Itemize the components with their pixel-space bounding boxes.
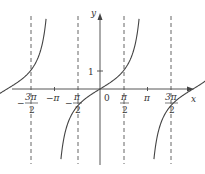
x-axis-label: x (191, 94, 196, 104)
svg-text:2: 2 (75, 105, 81, 115)
x-tick-label-neg-pi: −π (46, 93, 61, 103)
x-tick-label-pi: π (143, 93, 151, 103)
svg-text:−: − (17, 98, 25, 108)
svg-text:3π: 3π (165, 92, 178, 102)
y-axis-arrow-icon (98, 13, 103, 20)
y-axis-label: y (90, 8, 97, 18)
tangent-graph: y x 1 0 − 3π 2 −π − π 2 π 2 π 3π 2 (0, 0, 205, 174)
asymptotes (31, 16, 171, 164)
svg-text:−: − (65, 98, 73, 108)
axes (12, 18, 190, 165)
y-tick-label-1: 1 (88, 67, 94, 77)
origin-label: 0 (104, 93, 110, 103)
svg-text:2: 2 (29, 105, 35, 115)
svg-text:π: π (73, 92, 81, 102)
x-tick-label-neg-3pi-2: − 3π 2 (17, 92, 38, 115)
svg-text:3π: 3π (25, 92, 38, 102)
svg-text:2: 2 (122, 105, 128, 115)
svg-text:2: 2 (169, 105, 175, 115)
x-tick-label-pi-2: π 2 (120, 92, 129, 115)
svg-text:π: π (120, 92, 128, 102)
